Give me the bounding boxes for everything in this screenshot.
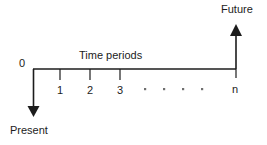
- origin-label-zero: 0: [19, 58, 25, 69]
- present-label: Present: [10, 125, 48, 136]
- future-label: Future: [221, 4, 253, 15]
- timeline-diagram: Future Present Time periods 0 1 2 3 n: [0, 0, 267, 145]
- ellipsis-dot: [144, 88, 146, 90]
- ellipsis-dot: [201, 88, 203, 90]
- tick-label-3: 3: [117, 84, 123, 96]
- present-arrowhead-icon: [28, 106, 40, 117]
- time-periods-label: Time periods: [79, 50, 142, 61]
- tick-label-2: 2: [87, 84, 93, 96]
- ellipsis-dot: [182, 88, 184, 90]
- ellipsis-dot: [163, 88, 165, 90]
- tick-label-1: 1: [57, 84, 63, 96]
- future-arrowhead-icon: [230, 24, 242, 36]
- end-label-n: n: [232, 84, 238, 95]
